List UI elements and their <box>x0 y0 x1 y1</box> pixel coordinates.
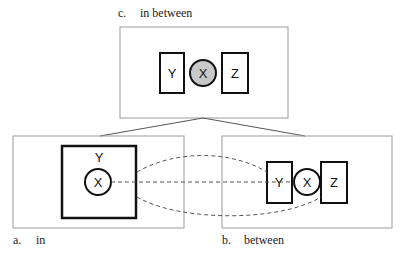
panel-b-x-label: X <box>303 175 312 190</box>
panel-a-y-label: Y <box>95 150 104 165</box>
panel-a: Y X a. in <box>13 136 184 247</box>
panel-c-z-label: Z <box>231 66 239 81</box>
panel-c-y-label: Y <box>168 66 177 81</box>
dashed-curve-top <box>137 156 267 173</box>
panel-a-letter: a. <box>13 233 21 247</box>
panel-c-letter: c. <box>118 6 126 20</box>
diagram-canvas: c. in between Y X Z Y X a. in <box>0 0 404 255</box>
panel-a-caption: in <box>36 233 45 247</box>
panel-b: Y Z X b. between <box>222 136 392 247</box>
connector-lines <box>100 118 305 136</box>
panel-c-x-label: X <box>199 66 208 81</box>
panel-a-x-label: X <box>94 175 103 190</box>
connector-c-to-b <box>203 118 305 136</box>
panel-c-caption: in between <box>140 6 192 20</box>
panel-c: c. in between Y X Z <box>118 6 288 118</box>
connector-c-to-a <box>100 118 203 136</box>
diagram-stage: c. in between Y X Z Y X a. in <box>0 0 404 255</box>
panel-b-z-label: Z <box>330 175 338 190</box>
dashed-curve-bottom <box>137 197 321 216</box>
panel-b-letter: b. <box>222 233 231 247</box>
panel-b-caption: between <box>244 233 284 247</box>
